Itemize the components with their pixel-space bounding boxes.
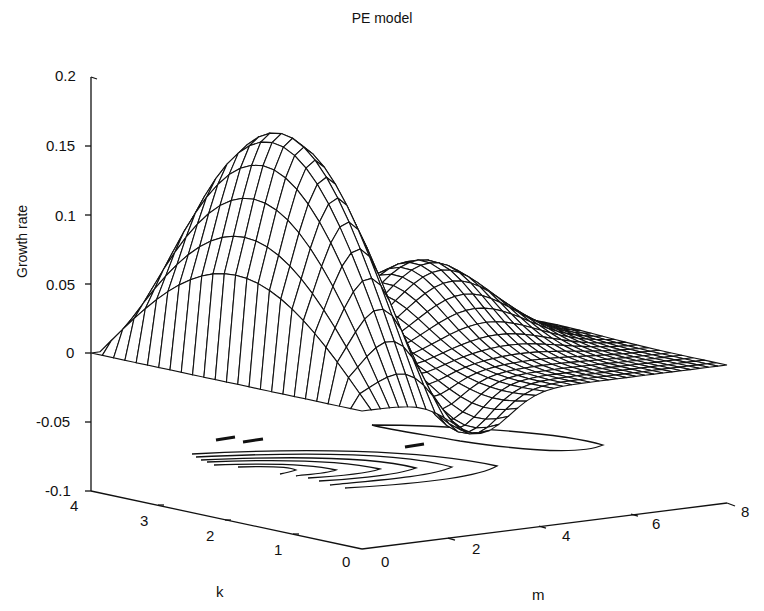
surface-plot-area bbox=[0, 0, 764, 611]
surface-plot-figure: PE model Growth rate 0.2 0.15 0.1 0.05 0… bbox=[0, 0, 764, 611]
contour-projection bbox=[192, 425, 603, 488]
surface-mesh bbox=[91, 133, 727, 434]
